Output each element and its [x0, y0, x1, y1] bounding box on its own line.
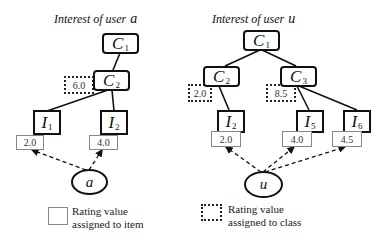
item-label: I [225, 112, 231, 132]
right-item-i5: I5 [296, 110, 324, 133]
node-subscript: 2 [115, 80, 120, 90]
node-label: C [253, 31, 264, 51]
right-item-i2: I2 [217, 110, 245, 133]
legend-line: assigned to class [228, 216, 301, 229]
legend-line: Rating value [72, 205, 144, 218]
legend-line: Rating value [228, 203, 301, 216]
right-item-i6: I6 [343, 110, 371, 133]
left-item-i1: I1 [33, 110, 61, 135]
node-label: C [290, 67, 301, 87]
title-user-var: u [288, 11, 295, 26]
right-i2-rating: 2.0 [211, 131, 241, 147]
title-user-var: a [130, 11, 137, 26]
right-i6-rating: 4.5 [332, 131, 362, 147]
node-label: C [213, 67, 224, 87]
left-user-node: a [71, 169, 108, 195]
item-subscript: 2 [232, 121, 237, 131]
right-node-c2: C2 [203, 66, 240, 87]
left-node-c1: C1 [102, 33, 139, 54]
node-label: C [112, 34, 123, 54]
legend-line: assigned to item [72, 218, 144, 231]
right-node-c1: C1 [243, 30, 280, 51]
left-i2-rating: 4.0 [89, 135, 118, 150]
node-subscript: 2 [225, 76, 230, 86]
node-subscript: 3 [302, 76, 307, 86]
legend-item-rating-text: Rating value assigned to item [72, 205, 144, 231]
item-subscript: 1 [48, 122, 53, 132]
node-label: C [103, 71, 114, 91]
item-subscript: 6 [358, 121, 363, 131]
right-user-node: u [244, 171, 283, 198]
item-label: I [108, 113, 114, 133]
right-tree-title: Interest of useru [212, 11, 295, 27]
legend-class-rating-text: Rating value assigned to class [228, 203, 301, 229]
title-text: Interest of user [212, 12, 284, 26]
node-subscript: 1 [265, 40, 270, 50]
item-label: I [351, 112, 357, 132]
item-subscript: 5 [311, 121, 316, 131]
title-text: Interest of user [54, 12, 126, 26]
legend-item-rating-swatch [48, 207, 68, 225]
item-subscript: 2 [115, 122, 120, 132]
left-tree-title: Interest of usera [54, 11, 137, 27]
item-label: I [41, 113, 47, 133]
left-item-i2: I2 [100, 110, 128, 135]
left-node-c2: C2 [93, 70, 130, 91]
legend-class-rating-swatch [201, 204, 222, 221]
left-i1-rating: 2.0 [16, 135, 44, 150]
node-subscript: 1 [124, 43, 129, 53]
right-i5-rating: 4.0 [282, 131, 312, 147]
left-c2-class-rating: 6.0 [64, 76, 94, 94]
item-label: I [304, 112, 310, 132]
right-node-c3: C3 [280, 66, 317, 87]
